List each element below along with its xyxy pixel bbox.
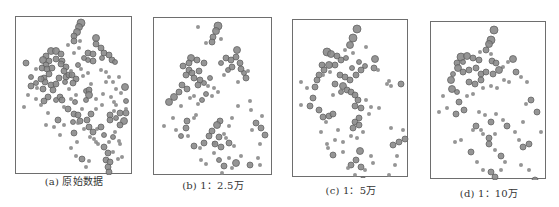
point-symbol: [377, 106, 381, 110]
point-symbol: [204, 41, 208, 45]
point-symbol: [39, 103, 43, 107]
point-symbol: [124, 99, 129, 104]
point-symbol: [258, 142, 262, 146]
point-symbol: [525, 80, 529, 84]
point-symbol: [398, 81, 404, 87]
point-symbol: [475, 160, 479, 164]
point-symbol: [243, 75, 249, 81]
point-symbol: [527, 168, 531, 172]
point-symbol: [319, 130, 323, 134]
point-symbol: [58, 51, 64, 57]
point-symbol: [117, 110, 123, 116]
point-symbol: [483, 113, 487, 117]
point-symbol: [332, 62, 338, 68]
point-symbol: [90, 129, 96, 135]
point-symbol: [66, 43, 70, 47]
point-symbol: [338, 57, 344, 63]
point-symbol: [234, 47, 241, 54]
point-symbol: [376, 68, 380, 72]
point-symbol: [106, 169, 112, 175]
point-symbol: [328, 70, 332, 74]
panel-caption-b: (b) 1：2.5万: [182, 177, 244, 192]
point-symbol: [224, 136, 228, 140]
point-symbol: [184, 118, 190, 124]
point-symbol: [26, 93, 30, 97]
point-symbol: [233, 160, 240, 167]
point-symbol: [22, 105, 26, 109]
point-symbol: [200, 98, 205, 103]
point-symbol: [114, 87, 118, 91]
point-symbol: [35, 86, 39, 90]
point-symbol: [222, 73, 226, 77]
point-symbol: [79, 156, 85, 162]
point-symbol: [67, 87, 71, 91]
point-symbol: [209, 39, 215, 45]
point-symbol: [246, 69, 250, 73]
point-symbol: [387, 173, 391, 177]
point-symbol: [456, 99, 462, 105]
point-symbol: [104, 80, 108, 84]
point-symbol: [330, 152, 336, 158]
point-symbol: [476, 57, 482, 63]
point-symbol: [183, 125, 189, 131]
point-symbol: [483, 69, 489, 75]
point-symbol: [102, 133, 107, 138]
point-symbol: [221, 163, 227, 169]
point-symbol: [89, 82, 93, 86]
point-symbol: [468, 149, 474, 155]
point-symbol: [111, 80, 115, 84]
point-symbol: [111, 135, 116, 140]
point-symbol: [54, 98, 59, 103]
point-symbol: [195, 82, 201, 88]
point-symbol: [472, 81, 478, 87]
point-symbol: [69, 69, 73, 73]
point-symbol: [116, 157, 120, 161]
point-symbol: [199, 158, 203, 162]
point-symbol: [227, 156, 231, 160]
point-symbol: [69, 146, 73, 150]
point-symbol: [44, 123, 48, 127]
point-symbol: [503, 160, 507, 164]
point-symbol: [352, 103, 358, 109]
point-symbol: [492, 174, 498, 180]
point-symbol: [361, 130, 365, 134]
point-symbol: [198, 146, 202, 150]
point-symbol: [347, 42, 354, 49]
point-symbol: [310, 95, 316, 101]
point-symbol: [71, 38, 77, 44]
point-symbol: [191, 75, 197, 81]
point-symbol: [124, 107, 128, 111]
point-symbol: [534, 109, 540, 115]
point-symbol: [46, 111, 50, 115]
point-symbol: [194, 57, 200, 63]
point-symbol: [453, 140, 457, 144]
point-symbol: [117, 75, 121, 79]
point-symbol: [192, 116, 196, 120]
point-symbol: [62, 123, 66, 127]
point-symbol: [236, 80, 240, 84]
point-symbol: [350, 66, 355, 71]
point-symbol: [117, 122, 123, 128]
point-symbol: [69, 97, 73, 101]
point-symbol: [451, 72, 456, 77]
point-symbol: [41, 98, 47, 104]
point-symbol: [82, 56, 87, 61]
point-symbol: [490, 26, 498, 34]
point-symbol: [28, 83, 34, 89]
point-symbol: [507, 80, 511, 84]
point-symbol: [461, 107, 467, 113]
point-symbol: [305, 86, 309, 90]
point-symbol: [206, 84, 210, 88]
point-symbol: [504, 123, 510, 129]
point-symbol: [437, 110, 441, 114]
point-symbol: [364, 98, 368, 102]
point-symbol: [506, 60, 510, 64]
point-symbol: [299, 103, 303, 107]
point-symbol: [502, 78, 506, 82]
point-symbol: [489, 84, 493, 88]
point-symbol: [77, 46, 81, 50]
point-symbol: [73, 100, 78, 105]
point-symbol: [216, 134, 222, 140]
point-symbol: [227, 124, 231, 128]
point-symbol: [90, 51, 96, 57]
